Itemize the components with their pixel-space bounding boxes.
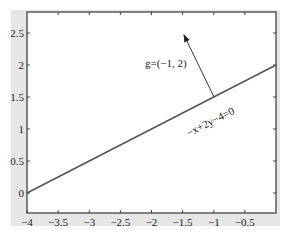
axes-box xyxy=(27,12,276,213)
y-tick-label: 1 xyxy=(19,123,25,135)
x-tick-label: −3.5 xyxy=(48,216,68,228)
x-tick-label: −3 xyxy=(83,216,95,228)
y-tick-label: 0 xyxy=(19,187,25,199)
x-tick-label: −2 xyxy=(146,216,158,228)
y-tick-label: 0.5 xyxy=(10,155,24,167)
plot-svg: −4 −3.5 −3 −2.5 −2 −1.5 −1 −0.5 0 0.5 1 … xyxy=(0,0,286,239)
figure: −4 −3.5 −3 −2.5 −2 −1.5 −1 −0.5 0 0.5 1 … xyxy=(0,0,286,239)
x-tick-labels: −4 −3.5 −3 −2.5 −2 −1.5 −1 −0.5 xyxy=(21,216,255,228)
y-tick-label: 2 xyxy=(19,59,25,71)
x-tick-label: −4 xyxy=(21,216,33,228)
x-tick-label: −1.5 xyxy=(173,216,193,228)
gradient-label: g=(−1, 2) xyxy=(145,57,187,70)
y-tick-label: 1.5 xyxy=(10,91,24,103)
x-tick-label: −2.5 xyxy=(110,216,130,228)
x-tick-label: −1 xyxy=(208,216,220,228)
y-tick-labels: 0 0.5 1 1.5 2 2.5 xyxy=(10,27,24,199)
y-tick-label: 2.5 xyxy=(10,27,24,39)
x-tick-label: −0.5 xyxy=(235,216,255,228)
